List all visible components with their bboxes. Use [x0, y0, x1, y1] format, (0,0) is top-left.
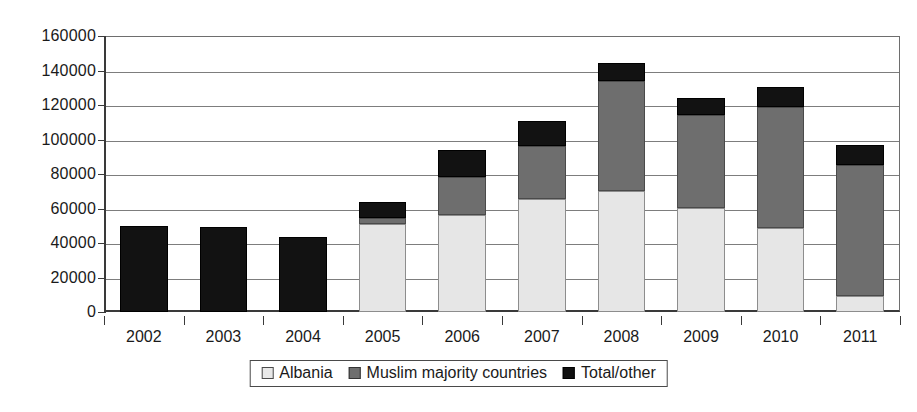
bar-segment-2010-total-other[interactable]	[757, 87, 805, 107]
bar-2003[interactable]	[200, 36, 248, 312]
bar-segment-2009-total-other[interactable]	[677, 98, 725, 114]
x-tick-label-2007: 2007	[524, 328, 560, 346]
legend-item-total-other[interactable]: Total/other	[563, 364, 656, 382]
bar-segment-2005-muslim-majority-countries[interactable]	[359, 218, 407, 224]
bar-segment-2011-muslim-majority-countries[interactable]	[836, 165, 884, 296]
bar-segment-2005-total-other[interactable]	[359, 202, 407, 218]
x-tick-mark	[104, 316, 105, 325]
bar-2002[interactable]	[120, 36, 168, 312]
x-tick-mark	[820, 316, 821, 325]
y-tick-mark	[98, 243, 106, 244]
y-axis: 0200004000060000800001000001200001400001…	[0, 0, 96, 412]
y-tick-label: 0	[87, 303, 96, 321]
x-tick-mark	[263, 316, 264, 325]
bar-segment-2008-albania[interactable]	[598, 191, 646, 312]
bar-segment-2007-albania[interactable]	[518, 199, 566, 312]
y-tick-label: 60000	[51, 200, 97, 218]
legend-label-albania: Albania	[279, 364, 332, 382]
stacked-bar-chart: 0200004000060000800001000001200001400001…	[0, 0, 917, 412]
bar-segment-2002-total-other[interactable]	[120, 226, 168, 312]
y-tick-mark	[98, 105, 106, 106]
bar-segment-2009-albania[interactable]	[677, 208, 725, 312]
y-tick-label: 20000	[51, 269, 97, 287]
legend-swatch-muslim-majority-countries	[349, 367, 361, 379]
bar-2008[interactable]	[598, 36, 646, 312]
x-tick-mark	[343, 316, 344, 325]
bar-segment-2009-muslim-majority-countries[interactable]	[677, 115, 725, 208]
legend-swatch-total-other	[563, 367, 575, 379]
x-tick-mark	[502, 316, 503, 325]
bar-segment-2007-muslim-majority-countries[interactable]	[518, 146, 566, 199]
bar-segment-2006-albania[interactable]	[438, 215, 486, 312]
x-tick-label-2011: 2011	[843, 328, 877, 346]
bar-2006[interactable]	[438, 36, 486, 312]
y-tick-label: 40000	[51, 234, 97, 252]
x-tick-label-2004: 2004	[285, 328, 321, 346]
bar-segment-2008-muslim-majority-countries[interactable]	[598, 81, 646, 191]
y-tick-mark	[98, 278, 106, 279]
y-tick-mark	[98, 312, 106, 313]
bar-segment-2011-total-other[interactable]	[836, 145, 884, 166]
x-tick-label-2002: 2002	[126, 328, 162, 346]
legend-label-muslim-majority-countries: Muslim majority countries	[367, 364, 547, 382]
x-tick-label-2010: 2010	[763, 328, 799, 346]
bar-2010[interactable]	[757, 36, 805, 312]
x-tick-mark	[900, 316, 901, 325]
x-tick-mark	[422, 316, 423, 325]
x-tick-label-2003: 2003	[206, 328, 242, 346]
y-tick-label: 80000	[51, 165, 97, 183]
chart-legend: Albania Muslim majority countries Total/…	[249, 360, 668, 387]
bar-segment-2003-total-other[interactable]	[200, 227, 248, 312]
legend-swatch-albania	[261, 367, 273, 379]
legend-item-muslim-majority-countries[interactable]: Muslim majority countries	[349, 364, 547, 382]
bar-2011[interactable]	[836, 36, 884, 312]
bar-segment-2008-total-other[interactable]	[598, 63, 646, 81]
x-tick-mark	[661, 316, 662, 325]
y-tick-mark	[98, 209, 106, 210]
x-tick-label-2006: 2006	[444, 328, 480, 346]
bar-2007[interactable]	[518, 36, 566, 312]
bar-segment-2010-muslim-majority-countries[interactable]	[757, 107, 805, 229]
bar-segment-2006-muslim-majority-countries[interactable]	[438, 177, 486, 214]
bar-segment-2010-albania[interactable]	[757, 228, 805, 312]
y-tick-mark	[98, 71, 106, 72]
bar-2005[interactable]	[359, 36, 407, 312]
y-tick-label: 120000	[41, 96, 96, 114]
x-tick-mark	[741, 316, 742, 325]
bar-segment-2004-total-other[interactable]	[279, 237, 327, 312]
y-tick-mark	[98, 174, 106, 175]
y-tick-mark	[98, 36, 106, 37]
x-tick-mark	[184, 316, 185, 325]
x-tick-mark	[582, 316, 583, 325]
bars-layer	[104, 36, 900, 312]
bar-segment-2007-total-other[interactable]	[518, 121, 566, 147]
x-tick-label-2009: 2009	[683, 328, 719, 346]
bar-segment-2011-albania[interactable]	[836, 296, 884, 312]
x-tick-label-2008: 2008	[604, 328, 640, 346]
bar-segment-2005-albania[interactable]	[359, 224, 407, 312]
legend-label-total-other: Total/other	[581, 364, 656, 382]
legend-item-albania[interactable]: Albania	[261, 364, 332, 382]
y-tick-mark	[98, 140, 106, 141]
bar-segment-2006-total-other[interactable]	[438, 150, 486, 178]
x-tick-label-2005: 2005	[365, 328, 401, 346]
y-tick-label: 160000	[41, 27, 96, 45]
bar-2009[interactable]	[677, 36, 725, 312]
bar-2004[interactable]	[279, 36, 327, 312]
y-tick-label: 140000	[41, 62, 96, 80]
y-tick-label: 100000	[41, 131, 96, 149]
x-axis: 2002200320042005200620072008200920102011	[104, 316, 900, 346]
